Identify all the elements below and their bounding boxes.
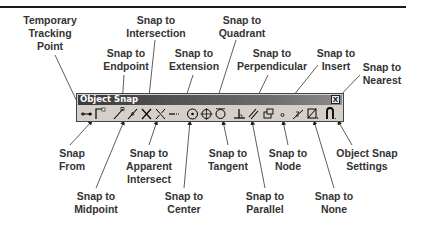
extension-icon bbox=[168, 106, 181, 121]
label-snap-to-tangent: Snap to Tangent bbox=[206, 147, 250, 173]
top-rule bbox=[0, 6, 406, 8]
toolbar-titlebar[interactable]: Object Snap X bbox=[78, 95, 342, 105]
label-snap-to-nearest: Snap to Nearest bbox=[357, 61, 407, 87]
settings-icon bbox=[324, 106, 337, 121]
close-button[interactable]: X bbox=[331, 95, 340, 104]
nearest-icon bbox=[292, 106, 305, 121]
none-icon bbox=[306, 106, 319, 121]
label-snap-to-parallel: Snap to Parallel bbox=[242, 190, 288, 216]
snap-nearest-button[interactable] bbox=[292, 106, 305, 121]
snap-insert-button[interactable] bbox=[262, 106, 275, 121]
endpoint-icon bbox=[112, 106, 125, 121]
snap-intersection-button[interactable] bbox=[140, 106, 153, 121]
snap-endpoint-button[interactable] bbox=[112, 106, 125, 121]
label-snap-to-midpoint: Snap to Midpoint bbox=[70, 190, 122, 216]
from-icon bbox=[93, 106, 106, 121]
snap-from-button[interactable] bbox=[93, 106, 106, 121]
label-snap-to-quadrant: Snap to Quadrant bbox=[216, 14, 268, 40]
toolbar-title: Object Snap bbox=[80, 94, 138, 104]
temporary-tracking-point-button[interactable] bbox=[80, 106, 93, 121]
snap-quadrant-button[interactable] bbox=[200, 106, 213, 121]
label-snap-to-endpoint: Snap to Endpoint bbox=[100, 47, 152, 73]
intersection-icon bbox=[140, 106, 153, 121]
snap-tangent-button[interactable] bbox=[214, 106, 227, 121]
label-snap-to-node: Snap to Node bbox=[266, 147, 310, 173]
label-snap-to-center: Snap to Center bbox=[162, 190, 206, 216]
label-snap-to-perpendicular: Snap to Perpendicular bbox=[236, 47, 308, 73]
midpoint-icon bbox=[126, 106, 139, 121]
snap-parallel-button[interactable] bbox=[247, 106, 260, 121]
label-snap-to-insert: Snap to Insert bbox=[314, 47, 358, 73]
perpendicular-icon bbox=[233, 106, 246, 121]
label-object-snap-settings: Object Snap Settings bbox=[334, 147, 400, 173]
object-snap-settings-button[interactable] bbox=[324, 106, 337, 121]
label-temporary-tracking-point: Temporary Tracking Point bbox=[20, 14, 80, 53]
label-snap-to-intersection: Snap to Intersection bbox=[125, 14, 187, 40]
snap-perpendicular-button[interactable] bbox=[233, 106, 246, 121]
label-snap-from: Snap From bbox=[55, 147, 89, 173]
snap-center-button[interactable] bbox=[186, 106, 199, 121]
tangent-icon bbox=[214, 106, 227, 121]
label-snap-to-none: Snap to None bbox=[312, 190, 356, 216]
insert-icon bbox=[262, 106, 275, 121]
apparent-intersect-icon bbox=[154, 106, 167, 121]
snap-none-button[interactable] bbox=[306, 106, 319, 121]
label-snap-to-apparent-intersect: Snap to Apparent Intersect bbox=[122, 147, 176, 186]
node-icon bbox=[276, 106, 289, 121]
snap-apparent-intersect-button[interactable] bbox=[154, 106, 167, 121]
center-icon bbox=[186, 106, 199, 121]
label-snap-to-extension: Snap to Extension bbox=[166, 47, 222, 73]
object-snap-toolbar[interactable]: Object Snap X bbox=[76, 93, 344, 122]
parallel-icon bbox=[247, 106, 260, 121]
snap-midpoint-button[interactable] bbox=[126, 106, 139, 121]
tracking-icon bbox=[80, 106, 93, 121]
toolbar-icons bbox=[78, 106, 342, 121]
snap-extension-button[interactable] bbox=[168, 106, 181, 121]
quadrant-icon bbox=[200, 106, 213, 121]
snap-node-button[interactable] bbox=[276, 106, 289, 121]
